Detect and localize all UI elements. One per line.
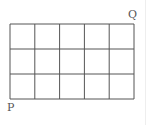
grid-lines: [0, 0, 147, 125]
point-label-q: Q: [128, 9, 137, 20]
page-edge-divider: [145, 0, 146, 125]
point-label-p: P: [7, 102, 14, 113]
grid-diagram: [0, 0, 147, 125]
